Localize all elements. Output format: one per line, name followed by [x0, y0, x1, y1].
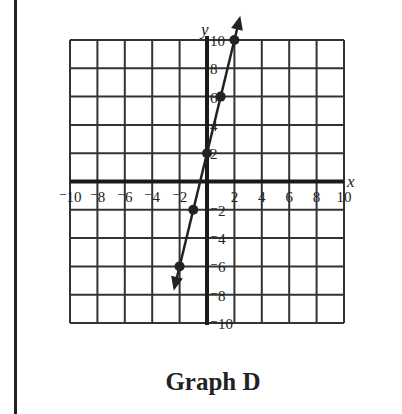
- y-tick-label: 8: [210, 61, 218, 77]
- x-tick-label: ⁻2: [172, 189, 188, 205]
- x-tick-label: 2: [231, 189, 239, 205]
- x-axis-label: x: [346, 172, 355, 191]
- axes: [70, 36, 344, 325]
- data-point: [229, 35, 239, 45]
- data-point: [216, 92, 226, 102]
- arrowhead-icon: [171, 276, 183, 291]
- graph-title: Graph D: [0, 368, 402, 396]
- x-tick-label: 6: [285, 189, 293, 205]
- x-tick-label: 4: [258, 189, 266, 205]
- x-tick-label: ⁻8: [90, 189, 106, 205]
- data-point: [175, 261, 185, 271]
- y-tick-label: ⁻10: [210, 316, 233, 332]
- y-tick-label: 10: [210, 33, 225, 49]
- y-tick-label: ⁻6: [210, 259, 226, 275]
- data-point: [188, 205, 198, 215]
- y-tick-label: ⁻8: [210, 288, 226, 304]
- x-tick-label: ⁻10: [59, 189, 82, 205]
- x-tick-label: 8: [313, 189, 321, 205]
- x-tick-label: ⁻4: [144, 189, 160, 205]
- data-point: [202, 148, 212, 158]
- y-tick-label: ⁻2: [210, 203, 226, 219]
- y-axis-label: y: [199, 20, 209, 39]
- arrowhead-icon: [231, 16, 243, 31]
- coordinate-plane: ⁻10⁻8⁻6⁻4⁻2246810108642⁻2⁻4⁻6⁻8⁻10 x y: [0, 0, 402, 414]
- y-tick-label: ⁻4: [210, 231, 226, 247]
- x-tick-label: ⁻6: [117, 189, 133, 205]
